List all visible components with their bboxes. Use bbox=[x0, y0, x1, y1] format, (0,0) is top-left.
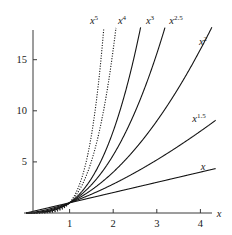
y-tick-label-5: 5 bbox=[22, 156, 27, 167]
x-axis-label: x bbox=[216, 208, 222, 219]
curve-label-x: x bbox=[200, 161, 206, 172]
y-tick-label-10: 10 bbox=[17, 105, 28, 116]
y-tick-label-15: 15 bbox=[17, 54, 28, 65]
power-function-chart: 123451015x x5x4x3x2.5x2x1.5x bbox=[0, 0, 232, 235]
x-tick-label-4: 4 bbox=[198, 218, 204, 229]
x-tick-label-2: 2 bbox=[111, 218, 116, 229]
x-tick-label-3: 3 bbox=[154, 218, 159, 229]
x-tick-label-1: 1 bbox=[67, 218, 72, 229]
